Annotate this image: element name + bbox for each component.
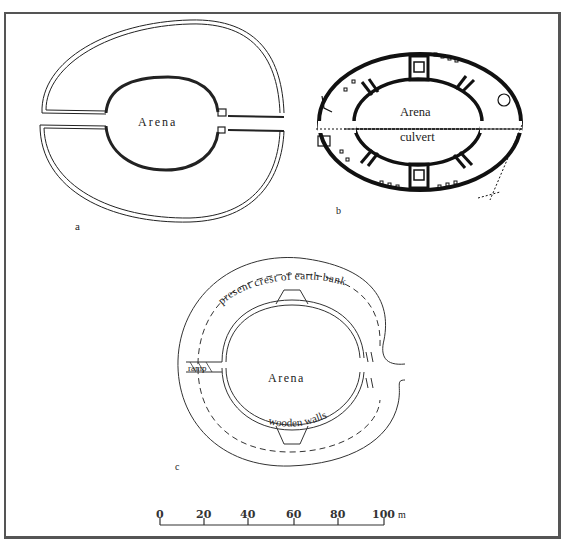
panel-a-arena-label: Arena xyxy=(138,115,177,129)
figure-canvas: Arena a xyxy=(0,0,563,545)
scale-unit: m xyxy=(398,509,406,520)
panel-a-label: a xyxy=(75,220,80,232)
scale-bar xyxy=(160,518,384,525)
panel-c-plan xyxy=(178,257,405,466)
scale-tick-60: 60 xyxy=(286,508,302,521)
panel-c-ramp-label: ramp xyxy=(188,363,207,373)
scale-tick-20: 20 xyxy=(196,508,212,521)
scale-tick-0: 0 xyxy=(156,508,164,521)
scale-tick-100: 100 xyxy=(372,508,395,521)
scale-tick-40: 40 xyxy=(240,508,256,521)
panel-b-arena-label: Arena xyxy=(400,105,431,119)
panel-b-plan xyxy=(316,53,522,200)
scale-tick-80: 80 xyxy=(330,508,346,521)
panel-b-culvert-label: culvert xyxy=(400,130,435,144)
panel-c-arena-label: Arena xyxy=(268,371,305,385)
panel-b-label: b xyxy=(336,205,341,216)
panel-c-label: c xyxy=(175,461,180,472)
